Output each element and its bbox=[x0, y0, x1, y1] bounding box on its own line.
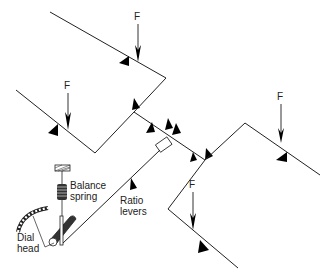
force-label: F bbox=[277, 91, 283, 102]
balance-spring bbox=[55, 165, 70, 216]
fulcrum-icon bbox=[48, 124, 58, 136]
dial-head-label-2: head bbox=[17, 243, 39, 254]
fulcrum-icon bbox=[165, 118, 173, 130]
second-left-lever bbox=[16, 90, 140, 153]
fulcrum-icon bbox=[276, 152, 287, 162]
top-left-lever bbox=[50, 12, 166, 112]
right-lever bbox=[205, 123, 320, 175]
linkage-block bbox=[155, 137, 172, 152]
dial-pinion bbox=[49, 216, 76, 246]
balance-spring-label-2: spring bbox=[70, 191, 97, 202]
balance-spring-label: Balance bbox=[70, 180, 107, 191]
fulcrum-icon bbox=[130, 178, 137, 190]
ratio-levers-label: Ratio bbox=[120, 195, 144, 206]
fulcrum-icon bbox=[119, 56, 129, 66]
force-arrow-1: F bbox=[134, 11, 141, 62]
force-label: F bbox=[134, 11, 140, 22]
spring-coil-icon bbox=[57, 184, 67, 200]
lever-diagram: F F F F bbox=[0, 0, 332, 278]
bottom-lever bbox=[168, 160, 238, 268]
force-arrow-4: F bbox=[189, 179, 196, 230]
fulcrum-icon bbox=[132, 98, 140, 110]
force-arrow-3: F bbox=[277, 91, 284, 143]
dial-head-label: Dial bbox=[17, 232, 34, 243]
force-label: F bbox=[189, 179, 195, 190]
ratio-levers-label-2: levers bbox=[120, 206, 147, 217]
fulcrum-icon bbox=[172, 123, 181, 135]
ratio-lever-horizontal bbox=[134, 112, 213, 162]
force-label: F bbox=[64, 80, 70, 91]
force-arrow-2: F bbox=[64, 80, 71, 130]
